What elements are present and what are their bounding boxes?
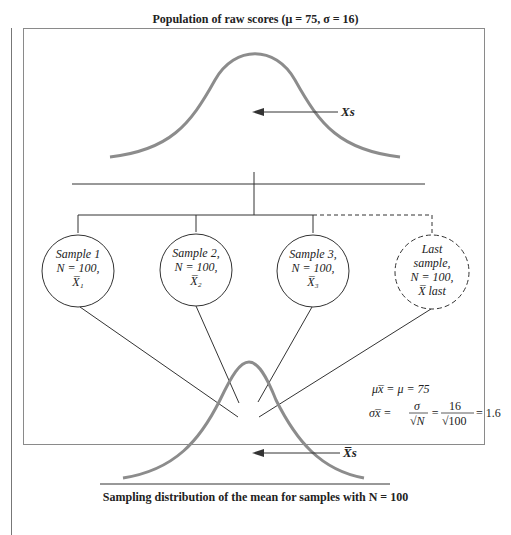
se-den-root-n: √N: [410, 414, 425, 429]
se-num-16: 16: [449, 399, 461, 414]
se-eq: =: [431, 406, 439, 421]
sample-3-connector: [258, 307, 312, 402]
sample-1-label: Sample 1N = 100,X̅₁: [42, 247, 114, 289]
sample-3-label: Sample 3,N = 100,X̅₃: [277, 247, 349, 289]
sample-1-connector: [80, 307, 238, 417]
se-den-root-100: √100: [442, 414, 467, 429]
sample-2-label: Sample 2,N = 100,X̅₂: [160, 246, 232, 288]
se-formula-lhs: σx̅ =: [369, 406, 391, 421]
mean-formula: μx̅ = μ = 75: [372, 382, 430, 397]
xbar-s-arrowhead: [252, 449, 264, 457]
se-num-sigma: σ: [414, 399, 420, 414]
se-result: = 1.6: [476, 406, 501, 421]
xbar-s-label: X̅s: [343, 445, 357, 461]
sampling-caption: Sampling distribution of the mean for sa…: [0, 490, 511, 505]
population-curve: [110, 54, 400, 157]
xs-label: Xs: [341, 104, 355, 120]
xs-arrowhead: [252, 108, 264, 116]
sampling-distribution-curve: [123, 362, 364, 478]
last-sample-connector: [259, 309, 431, 417]
sample-2-connector: [196, 306, 239, 403]
last-sample-label: Lastsample,N = 100,X̅ last: [396, 242, 468, 298]
